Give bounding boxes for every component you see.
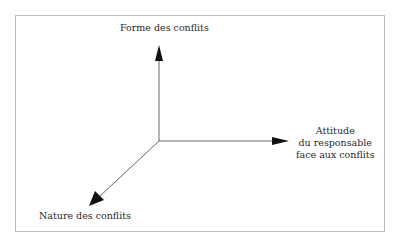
horizontal-axis-arrow bbox=[159, 137, 289, 145]
horizontal-axis-label-line-1: Attitude bbox=[296, 125, 375, 137]
horizontal-axis-label-line-2: du responsable bbox=[296, 137, 375, 149]
diagonal-axis-arrow bbox=[89, 141, 159, 206]
vertical-axis-label: Forme des conflits bbox=[120, 22, 209, 34]
horizontal-axis-label-line-3: face aux conflits bbox=[296, 149, 375, 161]
diagonal-axis-label: Nature des conflits bbox=[39, 210, 131, 222]
horizontal-axis-label: Attitude du responsable face aux conflit… bbox=[296, 125, 375, 161]
vertical-axis-arrow bbox=[155, 45, 163, 141]
